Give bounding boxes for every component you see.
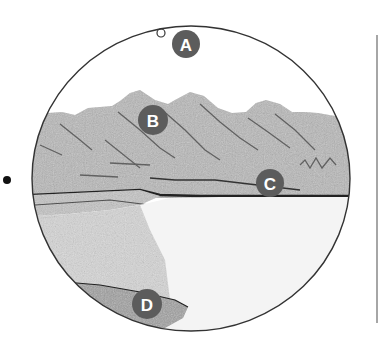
marker-a[interactable]: A xyxy=(172,30,200,58)
marker-d-label: D xyxy=(141,296,153,315)
marker-c[interactable]: C xyxy=(256,169,284,197)
marker-b[interactable]: B xyxy=(138,105,168,135)
fov-diagram: A B C D xyxy=(0,0,386,357)
point-dot xyxy=(3,176,11,184)
marker-b-label: B xyxy=(147,112,159,131)
marker-a-label: A xyxy=(180,36,192,55)
marker-d[interactable]: D xyxy=(132,289,162,319)
marker-c-label: C xyxy=(264,175,276,194)
